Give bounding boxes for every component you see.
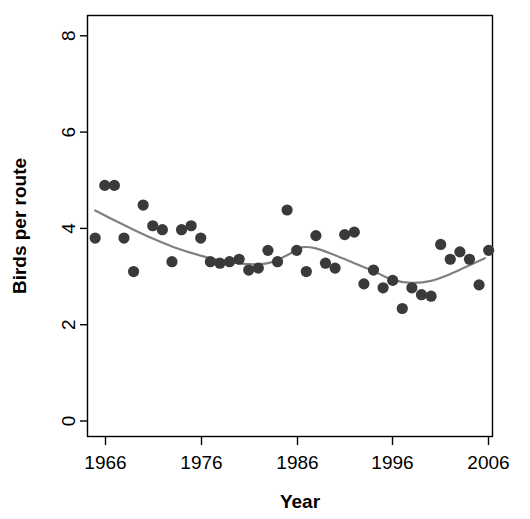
x-axis-title: Year bbox=[280, 491, 321, 512]
data-point bbox=[128, 266, 139, 277]
data-point bbox=[253, 263, 264, 274]
data-point bbox=[147, 220, 158, 231]
x-axis-tick-labels: 1966 1976 1986 1996 2006 bbox=[84, 452, 509, 473]
y-axis-title: Birds per route bbox=[9, 158, 30, 294]
data-point bbox=[291, 245, 302, 256]
data-point bbox=[272, 256, 283, 267]
y-tick-label-8: 8 bbox=[58, 31, 79, 42]
data-point bbox=[224, 256, 235, 267]
y-axis-tick-labels: 0 2 4 6 8 bbox=[58, 31, 79, 427]
data-point bbox=[310, 230, 321, 241]
data-point bbox=[339, 229, 350, 240]
data-point bbox=[349, 227, 360, 238]
data-point bbox=[358, 278, 369, 289]
data-point bbox=[205, 256, 216, 267]
x-tick-label-1966: 1966 bbox=[84, 452, 126, 473]
data-point bbox=[90, 232, 101, 243]
data-point bbox=[138, 199, 149, 210]
data-point bbox=[464, 254, 475, 265]
data-point bbox=[454, 246, 465, 257]
data-points-group bbox=[90, 180, 495, 314]
data-point bbox=[406, 282, 417, 293]
data-point bbox=[425, 291, 436, 302]
y-tick-label-0: 0 bbox=[58, 416, 79, 427]
data-point bbox=[445, 254, 456, 265]
x-tick-label-1986: 1986 bbox=[276, 452, 318, 473]
data-point bbox=[262, 245, 273, 256]
data-point bbox=[483, 245, 494, 256]
data-point bbox=[214, 258, 225, 269]
data-point bbox=[387, 275, 398, 286]
data-point bbox=[118, 232, 129, 243]
data-point bbox=[157, 224, 168, 235]
data-point bbox=[195, 232, 206, 243]
y-tick-label-4: 4 bbox=[58, 223, 79, 234]
data-point bbox=[377, 282, 388, 293]
data-point bbox=[435, 239, 446, 250]
data-point bbox=[320, 258, 331, 269]
data-point bbox=[243, 264, 254, 275]
data-point bbox=[166, 256, 177, 267]
data-point bbox=[330, 263, 341, 274]
y-tick-label-6: 6 bbox=[58, 127, 79, 138]
y-tick-label-2: 2 bbox=[58, 319, 79, 330]
data-point bbox=[109, 180, 120, 191]
data-point bbox=[368, 264, 379, 275]
data-point bbox=[186, 220, 197, 231]
x-axis-ticks bbox=[106, 437, 489, 445]
x-tick-label-2006: 2006 bbox=[467, 452, 509, 473]
data-point bbox=[397, 303, 408, 314]
data-point bbox=[473, 279, 484, 290]
data-point bbox=[234, 254, 245, 265]
x-tick-label-1976: 1976 bbox=[180, 452, 222, 473]
data-point bbox=[99, 180, 110, 191]
data-point bbox=[301, 266, 312, 277]
data-point bbox=[282, 204, 293, 215]
y-axis-ticks bbox=[80, 36, 87, 421]
chart-container: 0 2 4 6 8 1966 1976 1986 1996 2006 Year … bbox=[0, 0, 530, 519]
scatter-plot-svg: 0 2 4 6 8 1966 1976 1986 1996 2006 Year … bbox=[0, 0, 530, 519]
data-point bbox=[416, 289, 427, 300]
data-point bbox=[176, 224, 187, 235]
x-tick-label-1996: 1996 bbox=[371, 452, 413, 473]
